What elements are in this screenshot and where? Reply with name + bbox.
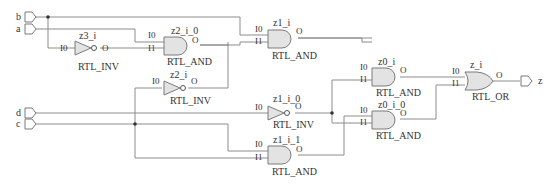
svg-text:RTL_AND: RTL_AND [376, 87, 421, 98]
output-port-z[interactable]: z [521, 75, 543, 86]
wire-c [35, 124, 268, 151]
svg-text:c: c [16, 118, 21, 129]
svg-text:I0: I0 [452, 66, 460, 76]
input-port-d[interactable]: d [16, 107, 36, 118]
input-port-b[interactable]: b [16, 11, 36, 22]
svg-text:I0: I0 [255, 102, 263, 112]
and-gate-icon [372, 68, 395, 86]
svg-text:O: O [400, 65, 407, 75]
svg-text:a: a [16, 23, 21, 34]
gate-z3-i[interactable]: z3_i I0 O RTL_INV [60, 30, 120, 72]
svg-text:RTL_AND: RTL_AND [272, 50, 317, 61]
svg-text:I1: I1 [360, 74, 368, 84]
gate-z1-i[interactable]: z1_i I0 I1 O RTL_AND [255, 17, 317, 61]
gate-z0-i-0[interactable]: z0_i_0 I0 I1 O RTL_AND [360, 99, 421, 141]
svg-text:I0: I0 [360, 62, 368, 72]
svg-text:O: O [296, 144, 303, 154]
gate-z1-i-0[interactable]: z1_i_0 I0 O RTL_INV [255, 93, 315, 130]
junction-dot [133, 122, 137, 126]
inverter-icon [268, 106, 284, 120]
svg-text:I0: I0 [60, 43, 68, 53]
and-gate-icon [164, 37, 187, 55]
svg-text:O: O [191, 76, 198, 86]
junction-dot [46, 15, 50, 19]
svg-text:I1: I1 [255, 36, 263, 46]
svg-text:O: O [296, 26, 303, 36]
input-port-a[interactable]: a [16, 23, 36, 34]
inverter-icon [75, 41, 91, 55]
svg-text:RTL_INV: RTL_INV [273, 119, 315, 130]
svg-text:O: O [400, 108, 407, 118]
svg-text:d: d [16, 107, 21, 118]
svg-text:z2_i: z2_i [170, 69, 187, 80]
svg-text:RTL_OR: RTL_OR [472, 91, 510, 102]
svg-text:I0: I0 [255, 24, 263, 34]
and-gate-icon [268, 146, 291, 164]
svg-text:RTL_AND: RTL_AND [167, 56, 212, 67]
svg-text:RTL_AND: RTL_AND [376, 130, 421, 141]
svg-text:O: O [192, 35, 199, 45]
wire-z1 [298, 38, 372, 42]
input-port-c[interactable]: c [16, 118, 36, 129]
or-gate-icon [465, 72, 493, 90]
svg-text:I0: I0 [360, 105, 368, 115]
inverter-icon [164, 81, 180, 95]
svg-text:RTL_INV: RTL_INV [170, 95, 212, 106]
svg-text:I1: I1 [452, 78, 460, 88]
schematic-canvas: b a d c z z3_i I0 O RTL_INV z2_i_0 I0 I1… [0, 0, 554, 185]
svg-text:I0: I0 [152, 76, 160, 86]
svg-text:I1: I1 [255, 152, 263, 162]
svg-text:z1_i: z1_i [273, 17, 290, 28]
svg-text:z: z [538, 75, 543, 86]
svg-text:O: O [295, 101, 302, 111]
svg-text:RTL_AND: RTL_AND [272, 166, 317, 177]
svg-text:z3_i: z3_i [79, 30, 96, 41]
svg-text:RTL_INV: RTL_INV [78, 61, 120, 72]
svg-text:I1: I1 [360, 117, 368, 127]
svg-text:I0: I0 [255, 139, 263, 149]
and-gate-icon [268, 30, 291, 48]
svg-text:z0_i: z0_i [378, 56, 395, 67]
svg-text:b: b [16, 11, 21, 22]
and-gate-icon [372, 111, 395, 129]
junction-dot [330, 111, 334, 115]
gate-z2-i-0[interactable]: z2_i_0 I0 I1 O RTL_AND [148, 25, 212, 67]
svg-text:z_i: z_i [470, 59, 482, 70]
svg-text:O: O [102, 43, 109, 53]
svg-text:I0: I0 [148, 30, 156, 40]
svg-text:I1: I1 [148, 43, 156, 53]
svg-text:O: O [496, 70, 503, 80]
